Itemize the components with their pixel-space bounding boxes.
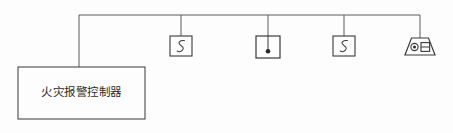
fire-alarm-control-panel-box bbox=[18, 67, 145, 119]
smoke-detector-s-icon bbox=[177, 41, 184, 52]
alarm-sounder-strobe-icon bbox=[405, 38, 435, 55]
manual-call-point-dot-icon bbox=[266, 49, 271, 54]
smoke-detector-s-icon bbox=[340, 41, 347, 52]
fire-alarm-system-diagram: 火灾报警控制器 bbox=[0, 0, 453, 133]
diagram-canvas bbox=[0, 0, 453, 133]
sounder-bell-center-dot-icon bbox=[413, 46, 416, 49]
